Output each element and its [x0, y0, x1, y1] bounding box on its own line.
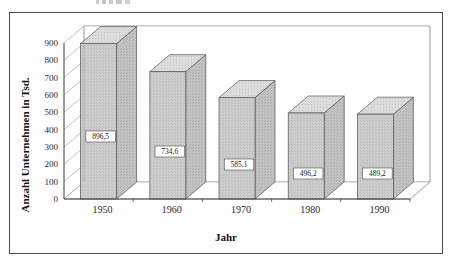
chart-svg: 0100200300400500600700800900 19501960197… — [10, 13, 442, 253]
y-tick-label: 400 — [45, 125, 59, 135]
value-label-text: 489,2 — [369, 169, 386, 178]
bar-1960 — [150, 55, 206, 199]
value-label-1990: 489,2 — [363, 168, 393, 179]
x-axis-title: Jahr — [215, 231, 237, 243]
x-tick-label: 1980 — [300, 204, 320, 215]
x-tick-label: 1990 — [369, 204, 389, 215]
bar-chart: 0100200300400500600700800900 19501960197… — [10, 13, 442, 253]
scan-artifact-top — [96, 0, 130, 4]
value-label-1980: 496,2 — [293, 168, 323, 179]
x-tick-label: 1960 — [162, 204, 182, 215]
y-tick-label: 500 — [45, 107, 59, 117]
x-axis-ticks: 19501960197019801990 — [93, 204, 390, 215]
y-axis-ticks: 0100200300400500600700800900 — [45, 38, 59, 204]
y-tick-label: 600 — [45, 90, 59, 100]
value-label-1960: 734,6 — [155, 146, 185, 157]
y-tick-label: 700 — [45, 73, 59, 83]
value-label-text: 496,2 — [300, 169, 317, 178]
bar-1950 — [81, 27, 137, 199]
chart-frame: 0100200300400500600700800900 19501960197… — [9, 12, 443, 254]
y-tick-label: 900 — [45, 38, 59, 48]
value-label-1950: 896,5 — [86, 131, 116, 142]
y-tick-label: 0 — [54, 194, 59, 204]
y-axis-title: Anzahl Unternehmen in Tsd. — [19, 77, 31, 212]
bar-1980 — [288, 96, 344, 199]
bar-1970 — [219, 81, 275, 199]
value-label-text: 585,1 — [231, 160, 248, 169]
y-tick-label: 800 — [45, 55, 59, 65]
value-label-text: 896,5 — [92, 132, 109, 141]
y-tick-label: 200 — [45, 159, 59, 169]
y-tick-label: 100 — [45, 177, 59, 187]
x-tick-label: 1950 — [93, 204, 113, 215]
value-label-text: 734,6 — [161, 147, 178, 156]
x-tick-label: 1970 — [231, 204, 251, 215]
bar-1990 — [357, 97, 413, 199]
y-tick-label: 300 — [45, 142, 59, 152]
value-label-1970: 585,1 — [224, 159, 254, 170]
